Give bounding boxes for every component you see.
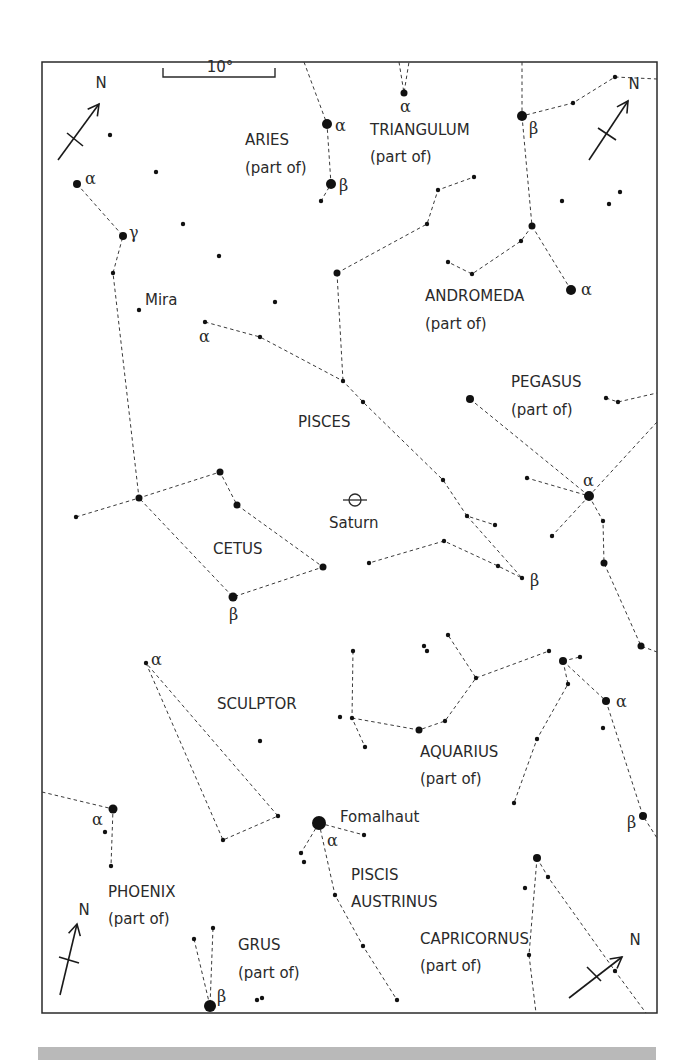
constellation-label: (part of) <box>511 401 573 419</box>
star-icon <box>613 969 617 973</box>
star-icon <box>416 727 423 734</box>
star-icon <box>559 657 567 665</box>
star-icon <box>547 649 551 653</box>
star-icon <box>136 495 143 502</box>
star-icon <box>527 953 531 957</box>
object-label: Saturn <box>329 514 379 532</box>
star-icon <box>571 101 575 105</box>
constellation-label: (part of) <box>108 910 170 928</box>
star-icon <box>119 232 127 240</box>
star-icon <box>341 379 345 383</box>
star-icon <box>443 719 447 723</box>
constellation-label: AQUARIUS <box>420 743 498 761</box>
star-icon <box>338 715 342 719</box>
star-icon <box>517 111 527 121</box>
star-icon <box>519 239 523 243</box>
greek-star-label: β <box>229 605 238 624</box>
star-icon <box>639 812 647 820</box>
star-icon <box>523 886 527 890</box>
star-icon <box>607 202 611 206</box>
star-icon <box>474 676 478 680</box>
object-label: Fomalhaut <box>340 808 419 826</box>
star-icon <box>204 1000 216 1012</box>
star-icon <box>470 272 474 276</box>
star-icon <box>326 179 336 189</box>
star-icon <box>442 539 446 543</box>
north-label: N <box>95 74 106 92</box>
star-icon <box>108 133 112 137</box>
constellation-label: PISCIS <box>351 866 398 884</box>
greek-star-label: β <box>217 987 226 1006</box>
greek-star-label: α <box>327 831 338 850</box>
star-icon <box>602 697 610 705</box>
star-icon <box>618 190 622 194</box>
star-icon <box>601 726 605 730</box>
chart-frame <box>42 62 657 1013</box>
star-icon <box>203 320 207 324</box>
star-icon <box>229 593 238 602</box>
scale-bar-label: 10° <box>207 58 234 76</box>
greek-star-label: β <box>339 176 348 195</box>
star-icon <box>578 655 582 659</box>
star-icon <box>273 300 277 304</box>
star-icon <box>334 270 341 277</box>
constellation-label: ARIES <box>245 131 289 149</box>
star-icon <box>566 682 570 686</box>
star-icon <box>441 478 445 482</box>
star-icon <box>234 502 241 509</box>
star-icon <box>211 926 215 930</box>
constellation-label: PISCES <box>298 413 350 431</box>
star-icon <box>333 893 337 897</box>
star-icon <box>276 814 280 818</box>
greek-star-label: γ <box>129 223 139 242</box>
star-icon <box>322 119 332 129</box>
star-icon <box>529 223 536 230</box>
star-icon <box>299 851 303 855</box>
constellation-label: CETUS <box>213 540 263 558</box>
star-icon <box>181 222 185 226</box>
star-icon <box>109 864 113 868</box>
star-icon <box>604 396 608 400</box>
star-icon <box>425 222 429 226</box>
greek-star-label: α <box>151 650 162 669</box>
star-icon <box>74 515 78 519</box>
constellation-label: (part of) <box>420 770 482 788</box>
star-icon <box>601 519 605 523</box>
constellation-label: (part of) <box>238 964 300 982</box>
star-icon <box>520 576 524 580</box>
star-icon <box>512 801 516 805</box>
star-icon <box>533 854 541 862</box>
star-icon <box>446 260 450 264</box>
star-icon <box>154 170 158 174</box>
star-icon <box>258 739 262 743</box>
north-label: N <box>78 901 89 919</box>
star-icon <box>111 271 115 275</box>
star-icon <box>584 491 594 501</box>
star-icon <box>472 175 476 179</box>
star-icon <box>103 830 107 834</box>
star-icon <box>221 838 225 842</box>
constellation-label: CAPRICORNUS <box>420 930 529 948</box>
star-icon <box>422 644 426 648</box>
star-icon <box>436 188 440 192</box>
star-icon <box>320 564 327 571</box>
star-icon <box>616 400 620 404</box>
star-icon <box>560 199 564 203</box>
constellation-label: ANDROMEDA <box>425 287 525 305</box>
star-icon <box>73 180 81 188</box>
star-icon <box>493 523 497 527</box>
star-icon <box>260 996 264 1000</box>
constellation-label: TRIANGULUM <box>369 121 470 139</box>
star-icon <box>425 649 429 653</box>
star-icon <box>217 254 221 258</box>
greek-star-label: α <box>583 471 594 490</box>
star-icon <box>550 534 554 538</box>
star-icon <box>363 745 367 749</box>
greek-star-label: β <box>529 119 538 138</box>
constellation-label: (part of) <box>420 957 482 975</box>
north-label: N <box>628 75 639 93</box>
star-icon <box>546 875 550 879</box>
star-icon <box>525 476 529 480</box>
star-icon <box>535 737 539 741</box>
object-label: Mira <box>145 291 177 309</box>
